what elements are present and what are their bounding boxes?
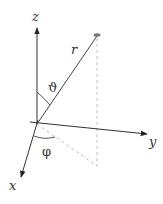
- theta-label: ϑ: [48, 80, 57, 95]
- spherical-coordinates-diagram: z y x r ϑ φ: [0, 0, 163, 204]
- phi-label: φ: [42, 144, 51, 159]
- phi-arc: [34, 136, 55, 138]
- point-marker: [94, 33, 101, 37]
- radius-vector: [37, 36, 97, 124]
- y-axis: [30, 122, 147, 134]
- x-axis: [21, 120, 38, 177]
- z-axis-label: z: [31, 9, 39, 24]
- radius-label: r: [71, 42, 78, 57]
- y-axis-label: y: [148, 134, 157, 149]
- x-axis-label: x: [9, 178, 17, 193]
